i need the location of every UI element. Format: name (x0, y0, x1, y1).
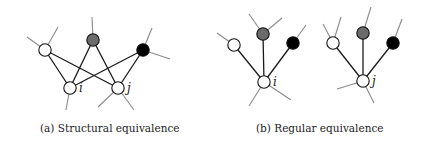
node-label-j: j (124, 81, 131, 95)
edge (363, 43, 393, 81)
caption-structural-equivalence: (a) Structural equivalence (40, 122, 180, 134)
node-g1 (257, 28, 269, 40)
node-label-i: i (273, 75, 277, 89)
node-label-i: i (79, 81, 83, 95)
node-j (357, 75, 369, 87)
node-i (258, 76, 270, 88)
edge (333, 43, 363, 81)
node-w1 (228, 39, 240, 51)
node-b1 (287, 37, 299, 49)
node-w (39, 44, 51, 56)
node-b2 (387, 37, 399, 49)
edge (264, 43, 293, 82)
edge (234, 45, 264, 82)
node-w2 (327, 37, 339, 49)
node-label-j: j (369, 74, 376, 88)
edge (45, 50, 70, 88)
node-j (112, 82, 124, 94)
node-i (64, 82, 76, 94)
edge (263, 34, 264, 82)
caption-regular-equivalence: (b) Regular equivalence (256, 122, 384, 134)
node-g (87, 34, 99, 46)
graph-nodes (39, 27, 399, 94)
node-b (137, 44, 149, 56)
node-g2 (357, 27, 369, 39)
